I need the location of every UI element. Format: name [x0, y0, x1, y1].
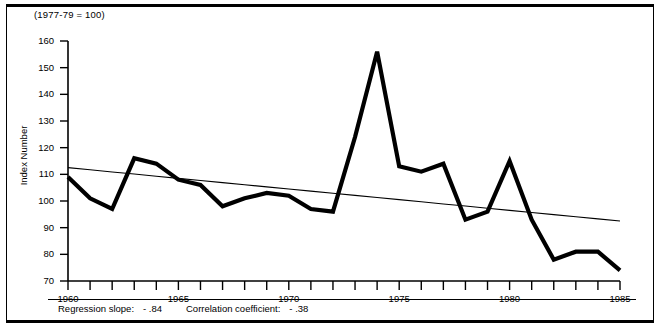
y-axis-tick-label: 150: [28, 62, 54, 73]
y-axis-tick-label: 160: [28, 35, 54, 46]
index-number-series-line: [68, 52, 620, 271]
y-axis-ticks: [60, 41, 68, 281]
x-axis-ticks: [68, 281, 620, 290]
plot-area: [0, 0, 660, 327]
chart-figure: (1977-79 = 100) Index Number 70809010011…: [0, 0, 660, 327]
correlation-coefficient-label: Correlation coefficient:: [186, 303, 280, 314]
y-axis-tick-label: 110: [28, 168, 54, 179]
regression-slope-caption: Regression slope:- .84: [58, 303, 162, 314]
correlation-coefficient-caption: Correlation coefficient:- .38: [186, 303, 308, 314]
regression-slope-value: - .84: [143, 303, 162, 314]
y-axis-tick-label: 80: [28, 248, 54, 259]
correlation-coefficient-value: - .38: [289, 303, 308, 314]
y-axis-tick-label: 140: [28, 88, 54, 99]
y-axis-tick-label: 90: [28, 222, 54, 233]
axes-group: [60, 41, 620, 290]
regression-slope-label: Regression slope:: [58, 303, 134, 314]
y-axis-tick-label: 120: [28, 142, 54, 153]
caption-divider: [48, 299, 636, 300]
y-axis-tick-label: 100: [28, 195, 54, 206]
y-axis-tick-label: 130: [28, 115, 54, 126]
y-axis-tick-label: 70: [28, 275, 54, 286]
